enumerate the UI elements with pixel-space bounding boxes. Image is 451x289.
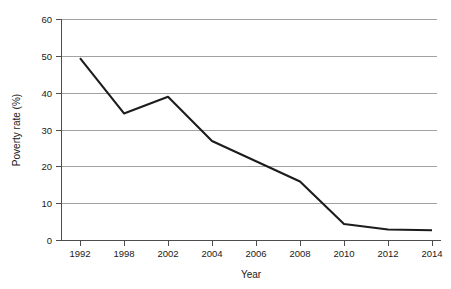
- poverty-rate-series-line: [80, 58, 432, 230]
- x-tick-label-2006: 2006: [245, 248, 266, 259]
- x-tick-label-2008: 2008: [289, 248, 310, 259]
- y-tick-marks: [56, 20, 61, 241]
- x-tick-label-2002: 2002: [157, 248, 178, 259]
- x-tick-label-1998: 1998: [113, 248, 134, 259]
- y-axis-title: Poverty rate (%): [11, 94, 22, 166]
- x-tick-label-1992: 1992: [69, 248, 90, 259]
- x-tick-labels: 1992 1998 2002 2004 2006 2008 2010 2012 …: [69, 248, 442, 259]
- y-gridlines: [61, 20, 437, 204]
- y-tick-label-40: 40: [41, 88, 52, 99]
- y-tick-labels: 60 50 40 30 20 10 0: [41, 14, 52, 246]
- y-tick-label-0: 0: [47, 235, 52, 246]
- y-tick-label-10: 10: [41, 198, 52, 209]
- x-tick-label-2010: 2010: [333, 248, 354, 259]
- y-tick-label-30: 30: [41, 125, 52, 136]
- x-tick-label-2012: 2012: [377, 248, 398, 259]
- x-tick-marks: [80, 241, 432, 247]
- poverty-rate-line-chart: 60 50 40 30 20 10 0 1992 1998 2002 2004 …: [0, 0, 451, 289]
- x-tick-label-2014: 2014: [421, 248, 442, 259]
- y-tick-label-60: 60: [41, 14, 52, 25]
- chart-canvas: 60 50 40 30 20 10 0 1992 1998 2002 2004 …: [0, 0, 451, 289]
- x-tick-label-2004: 2004: [201, 248, 222, 259]
- y-tick-label-50: 50: [41, 51, 52, 62]
- x-axis-title: Year: [241, 269, 262, 280]
- y-tick-label-20: 20: [41, 161, 52, 172]
